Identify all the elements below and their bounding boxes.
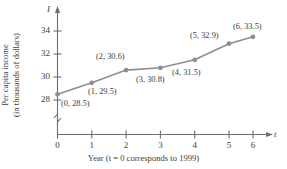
x-tick-label-2: 2 [118, 141, 134, 150]
data-point-0 [55, 92, 60, 97]
point-annotation-4: (4, 31.5) [172, 69, 201, 77]
y-axis-title-line2: (in thousands of dollars) [11, 14, 22, 136]
point-annotation-1: (1, 29.5) [88, 88, 117, 96]
chart-figure: I t 34 32 30 28 0 1 2 3 4 5 6 (0, 28.5) … [0, 0, 287, 169]
y-axis-variable-label: I [47, 5, 50, 14]
data-point-1 [89, 80, 94, 85]
data-line [58, 37, 254, 95]
data-point-2 [124, 68, 129, 73]
y-axis-title-line1: Per capita income [0, 14, 11, 136]
y-axis-title: Per capita income (in thousands of dolla… [0, 14, 34, 136]
point-annotation-3: (3, 30.8) [136, 76, 165, 84]
x-axis-variable-label: t [274, 130, 277, 139]
data-point-6 [251, 34, 256, 39]
y-axis-arrowhead [55, 6, 60, 13]
point-annotation-0: (0, 28.5) [61, 100, 90, 108]
x-tick-label-0: 0 [50, 141, 66, 150]
y-tick-label-32: 32 [34, 49, 50, 58]
data-point-5 [227, 41, 232, 46]
y-tick-label-28: 28 [34, 95, 50, 104]
data-point-4 [192, 57, 197, 62]
point-annotation-5: (5, 32.9) [190, 32, 219, 40]
y-tick-label-34: 34 [34, 26, 50, 35]
point-annotation-2: (2, 30.6) [96, 53, 125, 61]
y-tick-label-30: 30 [34, 72, 50, 81]
x-axis-arrowhead [266, 132, 273, 137]
data-point-3 [158, 65, 163, 70]
x-tick-label-6: 6 [245, 141, 261, 150]
x-tick-label-3: 3 [152, 141, 168, 150]
y-axis-break-mark [54, 114, 61, 122]
x-tick-label-1: 1 [84, 141, 100, 150]
x-tick-label-4: 4 [187, 141, 203, 150]
x-axis-caption: Year (t = 0 corresponds to 1999) [0, 154, 287, 163]
x-tick-label-5: 5 [221, 141, 237, 150]
point-annotation-6: (6, 33.5) [233, 23, 262, 31]
